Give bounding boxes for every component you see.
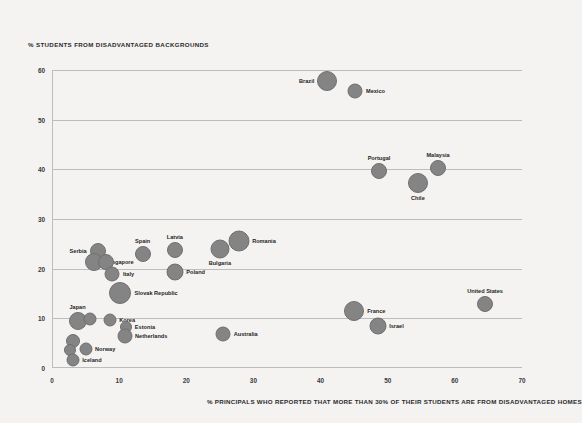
x-axis-tick-label: 40 xyxy=(317,377,324,384)
bubble-spain[interactable] xyxy=(135,246,151,262)
bubble-label-australia: Australia xyxy=(234,331,258,337)
y-axis-tick-label: 40 xyxy=(38,166,45,173)
bubble-korea[interactable] xyxy=(103,313,116,326)
bubble-poland[interactable] xyxy=(166,264,183,281)
gridline xyxy=(52,219,522,220)
y-axis-tick-label: 50 xyxy=(38,116,45,123)
gridline xyxy=(52,120,522,121)
bubble-norway[interactable] xyxy=(79,342,92,355)
y-axis-tick-label: 20 xyxy=(38,265,45,272)
bubble-israel[interactable] xyxy=(369,317,386,334)
x-axis-tick-label: 0 xyxy=(50,377,54,384)
bubble-label-france: France xyxy=(367,308,385,314)
bubble-netherlands[interactable] xyxy=(117,328,132,343)
gridline xyxy=(52,169,522,170)
bubble-label-estonia: Estonia xyxy=(135,324,155,330)
bubble-romania[interactable] xyxy=(228,231,249,252)
bubble-italy[interactable] xyxy=(105,266,120,281)
plot-area: 0102030405060010203040506070BrazilMexico… xyxy=(52,70,522,368)
bubble-chile[interactable] xyxy=(408,173,428,193)
bubble-label-romania: Romania xyxy=(252,238,276,244)
bubble-latvia[interactable] xyxy=(167,242,183,258)
x-axis-tick-label: 70 xyxy=(518,377,525,384)
bubble-label-portugal: Portugal xyxy=(368,155,391,161)
y-axis-tick-label: 0 xyxy=(41,365,45,372)
y-axis-tick-label: 60 xyxy=(38,67,45,74)
bubble-france[interactable] xyxy=(344,301,364,321)
x-axis-tick-label: 20 xyxy=(183,377,190,384)
x-axis-line xyxy=(52,367,522,368)
y-axis-title: % STUDENTS FROM DISADVANTAGED BACKGROUND… xyxy=(28,41,209,48)
gridline xyxy=(52,269,522,270)
bubble-label-united-states: United States xyxy=(467,288,503,294)
bubble-united-states[interactable] xyxy=(477,296,493,312)
y-axis-tick-label: 10 xyxy=(38,315,45,322)
bubble-australia[interactable] xyxy=(216,327,231,342)
bubble-label-japan: Japan xyxy=(69,304,85,310)
x-axis-tick-label: 50 xyxy=(384,377,391,384)
bubble-slovak-republic[interactable] xyxy=(109,282,131,304)
y-axis-tick-label: 30 xyxy=(38,216,45,223)
bubble-label-chile: Chile xyxy=(411,195,425,201)
bubble-label-brazil: Brazil xyxy=(299,78,314,84)
bubble-label-bulgaria: Bulgaria xyxy=(209,260,231,266)
x-axis-title: % PRINCIPALS WHO REPORTED THAT MORE THAN… xyxy=(207,398,582,405)
bubble-label-spain: Spain xyxy=(135,238,150,244)
x-axis-tick-label: 60 xyxy=(451,377,458,384)
bubble-portugal[interactable] xyxy=(371,163,387,179)
bubble-label-poland: Poland xyxy=(186,269,205,275)
bubble-mexico[interactable] xyxy=(348,83,363,98)
bubble-bulgaria[interactable] xyxy=(210,239,229,258)
bubble-label-iceland: Iceland xyxy=(82,357,101,363)
bubble-label-italy: Italy xyxy=(123,271,134,277)
bubble-label-latvia: Latvia xyxy=(167,234,183,240)
bubble-label-netherlands: Netherlands xyxy=(135,333,167,339)
x-axis-tick-label: 30 xyxy=(250,377,257,384)
bubble-label-israel: Israel xyxy=(389,323,404,329)
bubble-label-mexico: Mexico xyxy=(366,88,385,94)
bubble-label-norway: Norway xyxy=(95,346,115,352)
bubble-malaysia[interactable] xyxy=(430,160,446,176)
bubble-brazil[interactable] xyxy=(317,71,337,91)
bubble-label-malaysia: Malaysia xyxy=(426,152,449,158)
gridline xyxy=(52,70,522,71)
bubble-label-serbia: Serbia xyxy=(70,248,87,254)
bubble-iceland[interactable] xyxy=(66,353,79,366)
bubble-label-slovak-republic: Slovak Republic xyxy=(134,290,177,296)
bubble-unlabeled[interactable] xyxy=(84,313,97,326)
x-axis-tick-label: 10 xyxy=(116,377,123,384)
